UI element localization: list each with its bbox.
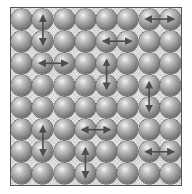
sphere	[96, 31, 117, 52]
sphere	[160, 163, 181, 184]
sphere	[54, 9, 75, 30]
sphere	[11, 9, 32, 30]
sphere	[117, 119, 138, 140]
sphere	[32, 53, 53, 74]
sphere	[117, 97, 138, 118]
sphere	[32, 119, 53, 140]
sphere	[54, 97, 75, 118]
sphere	[160, 53, 181, 74]
sphere	[139, 53, 160, 74]
sphere	[117, 75, 138, 96]
sphere	[139, 163, 160, 184]
sphere	[160, 119, 181, 140]
sphere	[75, 97, 96, 118]
sphere	[54, 75, 75, 96]
sphere	[75, 119, 96, 140]
sphere	[96, 97, 117, 118]
sphere	[96, 163, 117, 184]
sphere	[54, 119, 75, 140]
sphere	[32, 9, 53, 30]
sphere	[160, 31, 181, 52]
sphere	[117, 53, 138, 74]
sphere	[139, 31, 160, 52]
sphere	[96, 75, 117, 96]
sphere	[117, 9, 138, 30]
sphere	[11, 97, 32, 118]
sphere	[32, 75, 53, 96]
sphere	[75, 9, 96, 30]
sphere	[117, 163, 138, 184]
sphere	[11, 75, 32, 96]
sphere	[75, 53, 96, 74]
sphere	[96, 9, 117, 30]
sphere	[117, 31, 138, 52]
sphere	[96, 141, 117, 162]
sphere	[160, 9, 181, 30]
sphere	[139, 119, 160, 140]
sphere	[11, 141, 32, 162]
sphere	[96, 53, 117, 74]
sphere	[54, 141, 75, 162]
sphere	[75, 31, 96, 52]
sphere	[32, 163, 53, 184]
sphere	[32, 97, 53, 118]
sphere	[75, 163, 96, 184]
sphere	[139, 9, 160, 30]
sphere	[139, 75, 160, 96]
sphere	[11, 119, 32, 140]
sphere	[54, 31, 75, 52]
sphere	[54, 53, 75, 74]
sphere	[96, 119, 117, 140]
sphere	[11, 53, 32, 74]
sphere	[160, 97, 181, 118]
sphere	[139, 97, 160, 118]
sphere	[11, 31, 32, 52]
sphere	[75, 141, 96, 162]
sphere	[32, 141, 53, 162]
sphere	[160, 141, 181, 162]
sphere	[117, 141, 138, 162]
diagram-canvas	[0, 0, 192, 194]
sphere	[139, 141, 160, 162]
sphere	[54, 163, 75, 184]
sphere-lattice-frame	[10, 7, 182, 186]
sphere	[11, 163, 32, 184]
sphere	[160, 75, 181, 96]
sphere	[75, 75, 96, 96]
sphere	[32, 31, 53, 52]
